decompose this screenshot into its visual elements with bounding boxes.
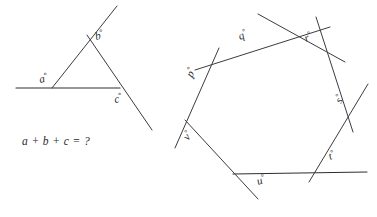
equation-sum-of-exterior-angles: a + b + c = ? bbox=[22, 135, 90, 147]
figure-triangle: a° b° c° a + b + c = ? bbox=[16, 6, 152, 147]
angle-label-c: c° bbox=[113, 90, 124, 105]
angle-label-p: p° bbox=[181, 65, 197, 80]
triangle-right-side-extended bbox=[87, 35, 152, 130]
heptagon-edge-rs-extended bbox=[316, 17, 353, 132]
angle-label-q: q° bbox=[236, 26, 249, 42]
figure-heptagon: p° q° r° s° t° u° v° bbox=[175, 14, 368, 199]
angle-label-v: v° bbox=[179, 128, 194, 143]
triangle-left-side-extended bbox=[52, 6, 117, 88]
geometry-figure-svg: a° b° c° a + b + c = ? p° q° bbox=[0, 0, 377, 217]
angle-label-r: r° bbox=[302, 29, 314, 44]
angle-label-b: b° bbox=[93, 27, 105, 42]
heptagon-edge-tu-extended bbox=[233, 172, 367, 174]
heptagon-edge-uv-extended bbox=[185, 120, 258, 199]
diagram-page: a° b° c° a + b + c = ? p° q° bbox=[0, 0, 377, 217]
heptagon-edge-qr-extended bbox=[258, 14, 345, 62]
angle-label-a: a° bbox=[38, 70, 49, 85]
angle-label-t: t° bbox=[326, 147, 336, 162]
